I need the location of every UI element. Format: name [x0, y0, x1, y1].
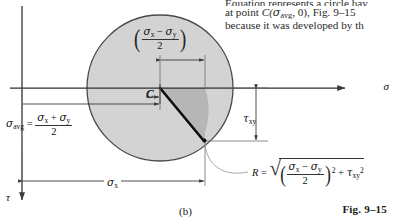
equals-sign: = — [27, 118, 33, 129]
radius-formula: R = √ ( σx − σy 2 )2 + τxy2 — [252, 158, 364, 187]
sigma-avg-numerator: σx + σy — [35, 112, 72, 125]
radius-plus-sign: + — [338, 167, 344, 178]
prose-line-3: because it was developed by th — [225, 19, 393, 32]
half-difference-numerator: σx − σy — [141, 26, 178, 39]
sigma-avg-formula: σavg = σx + σy 2 — [6, 112, 72, 138]
radius-leader-line — [205, 141, 248, 173]
half-difference-formula: ( σx − σy 2 ) — [133, 26, 187, 52]
tau-xy-dimension-label: τxy — [243, 112, 256, 126]
sigma-axis-label: σ — [384, 80, 389, 92]
sigma-avg-denominator: 2 — [35, 125, 72, 138]
half-difference-denominator: 2 — [141, 39, 178, 52]
prose-line2-tail: , 0), Fig. 9–15 — [292, 6, 355, 18]
tau-axis-label: τ — [6, 191, 10, 203]
tau-exponent: 2 — [360, 166, 364, 175]
prose-line2-lead: at point — [225, 6, 262, 18]
paren-exponent: 2 — [332, 166, 336, 175]
tau-xy-sub-in-radius: xy — [352, 171, 360, 180]
radius-symbol: R — [252, 167, 258, 178]
prose-center-point-label: C( — [262, 6, 273, 18]
center-point-label: C — [146, 88, 154, 100]
tau-subscript: xy — [249, 117, 257, 126]
body-text-paragraph: Equation represents a circle hav at poin… — [225, 0, 393, 32]
sigma-avg-glyph: σ — [273, 6, 281, 19]
prose-line-2: at point C(σavg, 0), Fig. 9–15 — [225, 6, 393, 19]
radius-inner-fraction: σx − σy 2 — [287, 161, 324, 187]
radius-equals-sign: = — [261, 167, 267, 178]
radius-fraction-denominator: 2 — [287, 174, 324, 187]
half-difference-fraction: σx − σy 2 — [141, 26, 178, 52]
radical-overbar — [279, 158, 364, 159]
sigma-avg-sub: avg — [13, 122, 24, 131]
sigma-x-dimension-label: σx — [104, 176, 121, 190]
figure-caption: Fig. 9–15 — [342, 203, 387, 215]
panel-label: (b) — [179, 205, 192, 217]
sigma-x-subscript: x — [114, 181, 118, 190]
square-root-icon: √ ( σx − σy 2 )2 + τxy2 — [270, 158, 364, 187]
radius-fraction-numerator: σx − σy — [287, 161, 324, 174]
sigma-avg-subscript: avg — [281, 11, 293, 19]
sigma-avg-fraction: σx + σy 2 — [35, 112, 72, 138]
point-a-marker — [203, 139, 207, 143]
